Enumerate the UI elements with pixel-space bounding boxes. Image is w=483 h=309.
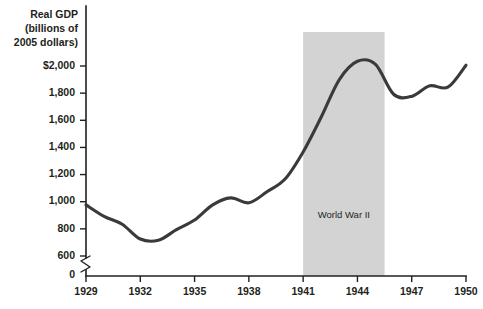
y-axis-tick-label: 1,200 — [49, 167, 75, 179]
y-axis-title-line: (billions of — [25, 22, 79, 34]
real-gdp-line-chart: World War II Real GDP(billions of2005 do… — [0, 0, 483, 309]
y-axis-tick-label: 600 — [57, 249, 75, 261]
x-axis-tick-label: 1941 — [291, 285, 315, 297]
y-axis-zero-label: 0 — [69, 268, 75, 280]
y-axis-tick-label: 1,800 — [49, 86, 75, 98]
world-war-2-band-label-group: World War II — [318, 209, 370, 220]
x-axis-tick-label: 1932 — [129, 285, 153, 297]
world-war-2-shaded-band — [303, 32, 384, 276]
x-axis-tick-label: 1947 — [400, 285, 424, 297]
x-axis-tick-label: 1929 — [74, 285, 98, 297]
y-axis-tick-label: 1,000 — [49, 194, 75, 206]
x-axis-tick-label: 1935 — [183, 285, 207, 297]
y-axis-title-line: Real GDP — [30, 8, 78, 20]
x-axis-tick-label: 1950 — [454, 285, 478, 297]
chart-container: World War II Real GDP(billions of2005 do… — [0, 0, 483, 309]
y-axis-tick-label: $2,000 — [43, 59, 75, 71]
world-war-2-label: World War II — [318, 209, 370, 220]
world-war-2-band-rect — [303, 32, 384, 276]
y-axis-tick-label: 1,400 — [49, 140, 75, 152]
x-axis-tick-label: 1938 — [237, 285, 261, 297]
x-axis-tick-label: 1944 — [346, 285, 370, 297]
y-axis-title-line: 2005 dollars) — [14, 36, 78, 48]
y-axis-tick-label: 800 — [57, 222, 75, 234]
y-axis-tick-label: 1,600 — [49, 113, 75, 125]
